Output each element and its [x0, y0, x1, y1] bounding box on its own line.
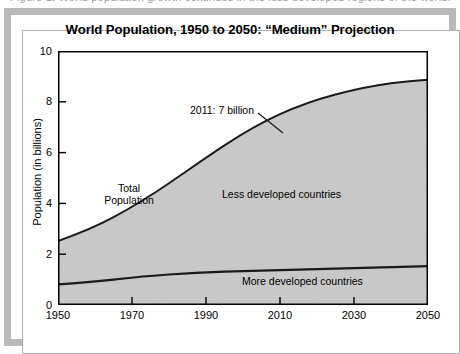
annotation-band-more-developed: More developed countries — [242, 275, 363, 287]
y-tick-label-10: 10 — [26, 45, 52, 57]
x-tick-label-2030: 2030 — [329, 309, 379, 321]
y-tick-label-2: 2 — [26, 248, 52, 260]
x-tick-label-2010: 2010 — [255, 309, 305, 321]
page-top-text-artifact: Figure 1. World population growth contin… — [0, 0, 460, 7]
x-tick-label-2050: 2050 — [403, 309, 453, 321]
page-top-artifact-text: Figure 1. World population growth contin… — [10, 0, 451, 3]
x-tick-label-1990: 1990 — [181, 309, 231, 321]
plot-area — [58, 51, 428, 305]
y-tick-label-6: 6 — [26, 146, 52, 158]
annotation-total-population-line1: Total — [94, 182, 164, 194]
annotation-total-population: Total Population — [94, 182, 164, 207]
annotation-total-population-line2: Population — [94, 194, 164, 206]
x-tick-label-1950: 1950 — [33, 309, 83, 321]
annotation-band-less-developed: Less developed countries — [222, 188, 341, 200]
y-tick-label-4: 4 — [26, 197, 52, 209]
annotation-milestone-2011: 2011: 7 billion — [190, 104, 254, 116]
x-tick-label-1970: 1970 — [107, 309, 157, 321]
y-tick-label-8: 8 — [26, 95, 52, 107]
chart-title: World Population, 1950 to 2050: “Medium”… — [0, 22, 460, 37]
